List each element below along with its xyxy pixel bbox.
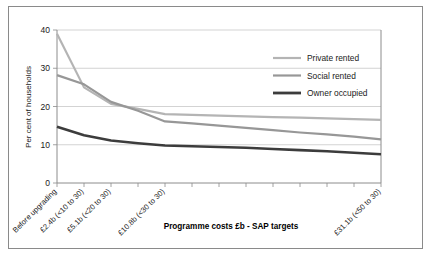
x-tick-label: £10.8b (<30 to 30) xyxy=(116,187,167,238)
x-tick-label: £31.1b (<50 to 30) xyxy=(332,187,383,238)
line-chart: 40 30 20 10 0 Per cent of households Bef… xyxy=(9,7,422,248)
series-line-owner-occupied xyxy=(57,127,381,155)
chart-legend: Private rentedSocial rentedOwner occupie… xyxy=(273,53,368,98)
y-tick-label-20: 20 xyxy=(41,102,51,112)
y-tick-label-0: 0 xyxy=(45,178,50,188)
x-axis-title: Programme costs £b - SAP targets xyxy=(164,222,299,231)
legend-label-private-rented: Private rented xyxy=(307,53,359,63)
y-axis-title: Per cent of households xyxy=(24,66,33,148)
y-tick-label-30: 30 xyxy=(41,63,51,73)
legend-label-owner-occupied: Owner occupied xyxy=(307,88,368,98)
chart-figure-frame: 40 30 20 10 0 Per cent of households Bef… xyxy=(8,6,423,249)
legend-label-social-rented: Social rented xyxy=(307,71,356,81)
series-line-social-rented xyxy=(57,75,381,139)
x-tick-marks xyxy=(57,183,381,187)
y-tick-marks xyxy=(53,30,57,183)
y-tick-label-10: 10 xyxy=(41,140,51,150)
y-tick-label-40: 40 xyxy=(41,25,51,35)
